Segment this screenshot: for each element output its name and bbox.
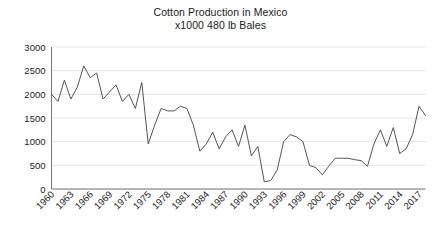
x-tick-label: 2002 <box>305 189 328 212</box>
line-chart-svg: 050010001500200025003000 196019631966196… <box>0 0 441 231</box>
plot-area: 050010001500200025003000 196019631966196… <box>0 0 441 231</box>
gridlines <box>52 47 426 189</box>
chart-container: Cotton Production in Mexico x1000 480 lb… <box>0 0 441 231</box>
x-tick-label: 1963 <box>53 189 76 212</box>
x-tick-label: 2005 <box>324 189 347 212</box>
x-tick-label: 1969 <box>92 189 115 212</box>
y-tick-label: 1500 <box>24 113 45 124</box>
x-tick-label: 1984 <box>188 189 211 212</box>
x-tick-label: 1978 <box>150 189 173 212</box>
x-tick-label: 1975 <box>130 189 153 212</box>
x-tick-label: 1972 <box>111 189 134 212</box>
y-axis-tick-labels: 050010001500200025003000 <box>24 42 45 195</box>
x-tick-label: 1981 <box>169 189 192 212</box>
x-tick-label: 1987 <box>208 189 231 212</box>
x-tick-label: 1999 <box>285 189 308 212</box>
x-tick-label: 2011 <box>363 189 385 211</box>
y-tick-label: 1000 <box>24 136 45 147</box>
x-tick-label: 1996 <box>266 189 289 212</box>
x-tick-label: 1990 <box>227 189 250 212</box>
x-tick-label: 1960 <box>34 189 57 212</box>
y-tick-label: 2500 <box>24 65 45 76</box>
x-tick-label: 2014 <box>382 189 405 212</box>
x-tick-label: 1966 <box>72 189 95 212</box>
data-series-line <box>52 66 426 182</box>
x-tick-label: 2017 <box>401 189 424 212</box>
y-tick-label: 3000 <box>24 42 45 53</box>
x-tick-label: 1993 <box>246 189 269 212</box>
y-tick-label: 500 <box>30 160 46 171</box>
y-tick-label: 2000 <box>24 89 45 100</box>
x-axis-tick-labels: 1960196319661969197219751978198119841987… <box>34 189 424 212</box>
x-tick-label: 2008 <box>343 189 366 212</box>
